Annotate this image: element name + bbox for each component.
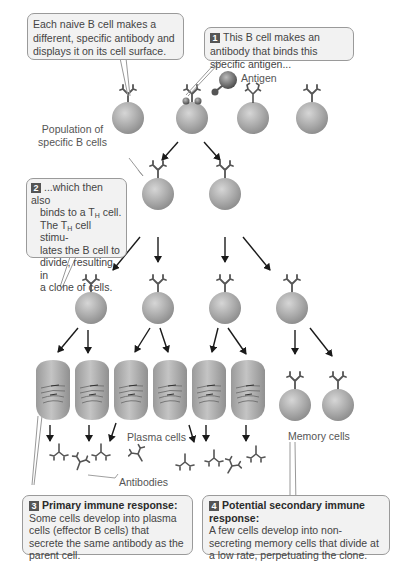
step-badge-2: 2 (31, 183, 41, 193)
antibodies-label: Antibodies (119, 476, 168, 489)
memory-cells-label: Memory cells (288, 430, 350, 443)
step-badge-1: 1 (210, 33, 220, 43)
callout-naive-text: Each naive B cell makes a different, spe… (33, 18, 175, 57)
antibody-icons (50, 443, 265, 478)
naive-b-cell-1 (112, 85, 144, 134)
population-label-line2: specific B cells (35, 136, 110, 149)
callout-step-2: 2...which then also binds to a TH cell. … (26, 178, 127, 258)
step-badge-4: 4 (209, 501, 219, 511)
plasma-cell-3 (114, 360, 148, 420)
callout-step-4-text: A few cells develop into non-secreting m… (209, 524, 383, 562)
population-label-line1: Population of (35, 123, 110, 136)
callout-step-4: 4Potential secondary immune response: A … (202, 495, 390, 555)
callout-naive-b-cell: Each naive B cell makes a different, spe… (27, 13, 184, 60)
plasma-cell-1 (36, 360, 70, 420)
memory-cell-2 (322, 372, 354, 421)
activated-b-cell (142, 161, 174, 210)
population-label: Population of specific B cells (35, 123, 110, 149)
step-badge-3: 3 (29, 501, 39, 511)
callout-step-3-text: Some cells develop into plasma cells (ef… (29, 512, 186, 562)
plasma-cells-label: Plasma cells (127, 431, 186, 444)
b-cell-row3-4 (276, 275, 308, 324)
memory-cell-1 (279, 372, 311, 421)
naive-b-cell-3 (237, 83, 269, 134)
callout-step-3-title: Primary immune response: (42, 499, 177, 511)
antigen-label: Antigen (241, 72, 277, 85)
plasma-cell-5 (192, 360, 226, 420)
naive-b-cell-4 (296, 85, 328, 134)
b-cell-row3-2 (142, 275, 174, 324)
callout-step-3: 3Primary immune response: Some cells dev… (22, 495, 193, 555)
plasma-cell-2 (75, 360, 109, 420)
callout-step-4-title: Potential secondary immune response: (209, 499, 365, 524)
antigen-icon (212, 71, 238, 96)
b-cell-row3-3 (209, 275, 241, 324)
plasma-cell-6 (231, 360, 265, 420)
clone-b-cell (209, 161, 241, 210)
plasma-cell-4 (153, 360, 187, 420)
callout-step-1: 1This B cell makes an antibody that bind… (204, 27, 354, 61)
